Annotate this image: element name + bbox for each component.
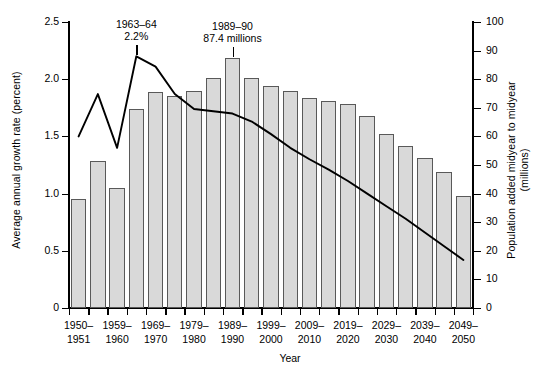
x-tick-mark — [473, 309, 474, 315]
right-tick-label: 70 — [486, 101, 526, 113]
x-tick-mark — [184, 309, 185, 315]
x-tick-mark — [165, 309, 166, 315]
x-tick-mark — [396, 309, 397, 315]
left-tick-label: 0 — [21, 301, 59, 313]
left-tick-mark — [62, 251, 69, 252]
x-tick-mark — [69, 309, 70, 315]
x-tick-mark — [338, 309, 339, 315]
plot-area — [69, 22, 473, 308]
left-tick-mark — [62, 136, 69, 137]
right-tick-mark — [474, 194, 481, 195]
left-tick-mark — [62, 308, 69, 309]
right-tick-mark — [474, 22, 481, 23]
right-tick-mark — [474, 251, 481, 252]
x-tick-mark — [300, 309, 301, 315]
right-tick-mark — [474, 79, 481, 80]
chart-figure: Average annual growth rate (percent) Pop… — [0, 0, 536, 375]
annotation-peak-population-added: 1989–9087.4 millions — [173, 20, 293, 44]
right-tick-mark — [474, 51, 481, 52]
left-tick-label: 0.5 — [21, 244, 59, 256]
right-tick-label: 50 — [486, 158, 526, 170]
x-tick-mark — [454, 309, 455, 315]
right-tick-mark — [474, 165, 481, 166]
x-tick-mark — [377, 309, 378, 315]
x-tick-mark — [204, 309, 205, 315]
right-tick-mark — [474, 279, 481, 280]
x-tick-label-start: 2049– — [437, 318, 489, 332]
right-tick-mark — [474, 108, 481, 109]
left-tick-label: 1.5 — [21, 129, 59, 141]
x-tick-mark — [107, 309, 108, 315]
y-axis-left-title: Average annual growth rate (percent) — [10, 60, 23, 260]
right-tick-label: 100 — [486, 15, 526, 27]
right-tick-mark — [474, 308, 481, 309]
x-tick-mark — [223, 309, 224, 315]
line-series — [69, 22, 473, 308]
right-tick-label: 60 — [486, 129, 526, 141]
right-tick-label: 0 — [486, 301, 526, 313]
right-tick-label: 40 — [486, 187, 526, 199]
right-tick-label: 80 — [486, 72, 526, 84]
x-tick-mark — [261, 309, 262, 315]
annotation-leader-line — [136, 45, 137, 55]
annotation-line-2: 87.4 millions — [173, 32, 293, 44]
x-tick-label-end: 2050 — [437, 332, 489, 346]
x-tick-mark — [88, 309, 89, 315]
right-tick-label: 10 — [486, 272, 526, 284]
x-tick-mark — [319, 309, 320, 315]
x-tick-mark — [127, 309, 128, 315]
x-tick-mark — [435, 309, 436, 315]
x-tick-mark — [415, 309, 416, 315]
right-tick-label: 30 — [486, 215, 526, 227]
left-tick-label: 2.0 — [21, 72, 59, 84]
x-tick-mark — [358, 309, 359, 315]
x-tick-label: 2049–2050 — [437, 318, 489, 346]
annotation-leader-line — [233, 47, 234, 57]
left-tick-mark — [62, 194, 69, 195]
left-tick-label: 2.5 — [21, 15, 59, 27]
left-tick-mark — [62, 22, 69, 23]
left-tick-mark — [62, 79, 69, 80]
x-tick-mark — [281, 309, 282, 315]
right-tick-mark — [474, 136, 481, 137]
x-axis-title: Year — [0, 352, 536, 364]
x-tick-mark — [146, 309, 147, 315]
left-tick-label: 1.0 — [21, 187, 59, 199]
right-tick-label: 90 — [486, 44, 526, 56]
right-tick-mark — [474, 222, 481, 223]
annotation-line-1: 1989–90 — [173, 20, 293, 32]
growth-rate-polyline — [79, 56, 464, 260]
x-tick-mark — [242, 309, 243, 315]
right-tick-label: 20 — [486, 244, 526, 256]
